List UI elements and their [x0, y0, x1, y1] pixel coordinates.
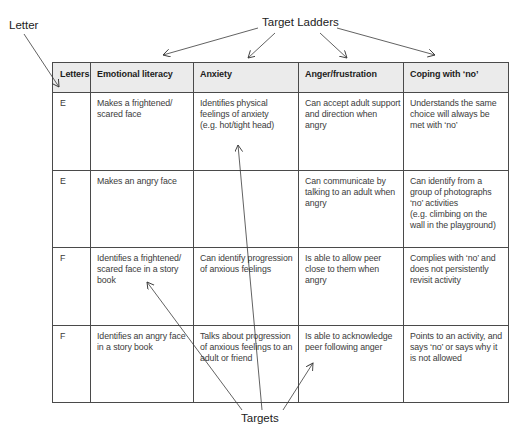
- row-3-letter: F: [53, 248, 91, 326]
- header-emotional-literacy: Emotional literacy: [91, 63, 194, 93]
- row-3-emotional-literacy: Identifies a frightened/ scared face in …: [91, 248, 194, 326]
- row-4-emotional-literacy: Identifies an angry face in a story book: [91, 326, 194, 403]
- row-2-emotional-literacy: Makes an angry face: [91, 171, 194, 248]
- ladder-arrow-coping-with-no-icon: [337, 28, 435, 55]
- row-1-letter: E: [53, 93, 91, 171]
- row-1-coping-with-no: Understands the same choice will always …: [404, 93, 509, 171]
- target-ladders-table: Letters Emotional literacy Anxiety Anger…: [52, 62, 509, 403]
- ladder-arrow-emotional-literacy-icon: [163, 28, 258, 55]
- header-coping-with-no: Coping with ‘no’: [404, 63, 509, 93]
- row-4-anxiety: Talks about progression of anxious feeli…: [194, 326, 299, 403]
- header-letters: Letters: [53, 63, 91, 93]
- row-1-anger-frustration: Can accept adult support and direction w…: [299, 93, 404, 171]
- header-anger-frustration: Anger/frustration: [299, 63, 404, 93]
- row-1-anxiety: Identifies physical feelings of anxiety …: [194, 93, 299, 171]
- row-3-anxiety: Can identify progression of anxious feel…: [194, 248, 299, 326]
- row-2-coping-with-no: Can identify from a group of photographs…: [404, 171, 509, 248]
- row-3-anger-frustration: Is able to allow peer close to them when…: [299, 248, 404, 326]
- targets-annotation-label: Targets: [241, 411, 279, 425]
- letter-annotation-label: Letter: [9, 18, 38, 32]
- row-2-letter: E: [53, 171, 91, 248]
- row-4-coping-with-no: Points to an activity, and says ‘no’ or …: [404, 326, 509, 403]
- row-4-letter: F: [53, 326, 91, 403]
- row-3-coping-with-no: Complies with ‘no’ and does not persiste…: [404, 248, 509, 326]
- target-ladders-annotation-label: Target Ladders: [262, 15, 339, 29]
- ladder-arrow-anxiety-icon: [248, 33, 275, 58]
- row-4-anger-frustration: Is able to acknowledge peer following an…: [299, 326, 404, 403]
- ladder-arrow-anger-frustration-icon: [320, 33, 347, 58]
- row-2-anxiety: [194, 171, 299, 248]
- row-1-emotional-literacy: Makes a frightened/ scared face: [91, 93, 194, 171]
- header-anxiety: Anxiety: [194, 63, 299, 93]
- row-2-anger-frustration: Can communicate by talking to an adult w…: [299, 171, 404, 248]
